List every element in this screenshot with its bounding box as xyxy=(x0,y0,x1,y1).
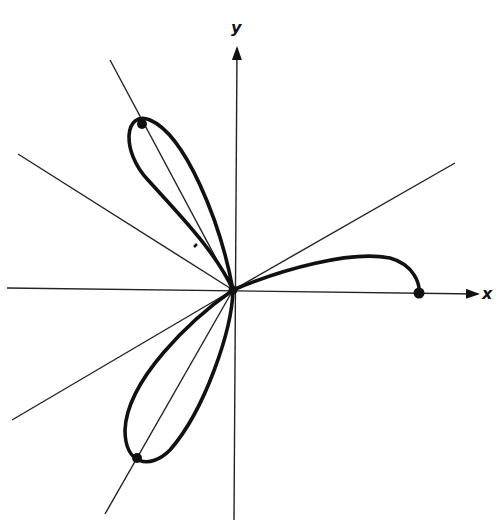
radial-line-upper-left xyxy=(18,154,233,290)
endpoint-dot xyxy=(414,288,425,299)
x-axis xyxy=(7,288,478,294)
origin-dot xyxy=(229,286,238,295)
radial-line-steep-lower xyxy=(105,290,233,514)
radial-line-lower-right xyxy=(233,163,455,290)
x-axis-label: x xyxy=(482,284,492,303)
polar-diagram xyxy=(0,0,502,524)
lower-petal-dot xyxy=(132,453,142,463)
y-axis xyxy=(234,48,237,520)
y-axis-label: y xyxy=(231,18,241,37)
tick-mark xyxy=(194,244,197,247)
upper-petal-dot xyxy=(137,119,147,129)
